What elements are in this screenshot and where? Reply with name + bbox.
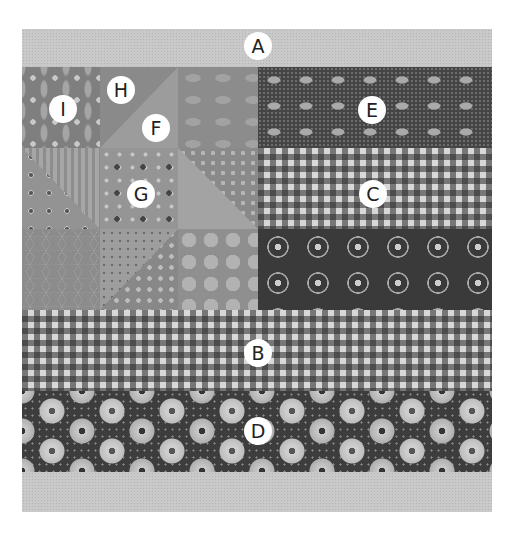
label-f: F [142, 114, 170, 142]
hexagon-square [22, 229, 100, 310]
label-e: E [358, 96, 386, 124]
big-dot-square [178, 229, 258, 310]
label-b: B [244, 339, 272, 367]
label-a: A [244, 32, 272, 60]
label-g: G [127, 180, 155, 208]
label-i: I [49, 95, 77, 123]
star-print-block [258, 229, 492, 310]
label-d: D [244, 417, 272, 445]
label-c: C [359, 180, 387, 208]
leaf-print-square [178, 67, 258, 148]
bottom-border [22, 472, 492, 512]
quilt-diagram: A H I F E G C B D [22, 29, 492, 512]
label-h: H [107, 76, 135, 104]
